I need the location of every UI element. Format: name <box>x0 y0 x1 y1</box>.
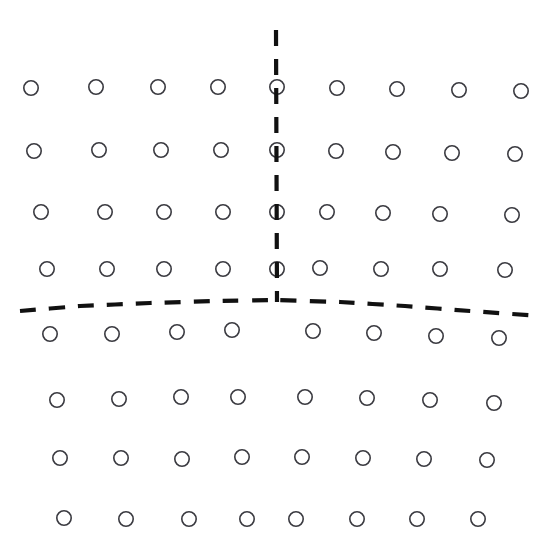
canvas-background <box>0 0 549 549</box>
dot-grid-svg <box>0 0 549 549</box>
figure-canvas <box>0 0 549 549</box>
